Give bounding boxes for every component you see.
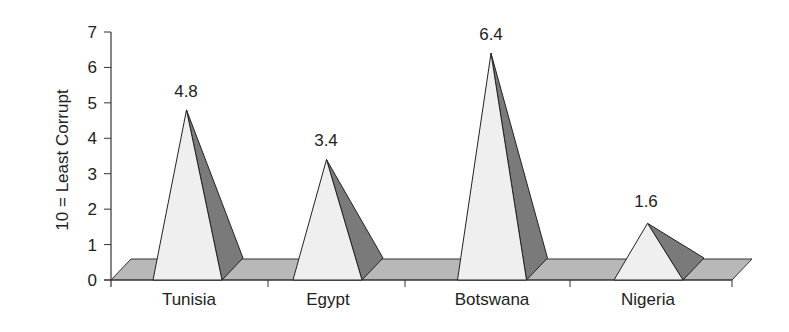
y-tick-label: 0 (88, 271, 97, 290)
y-tick-label: 1 (88, 236, 97, 255)
y-tick-label: 7 (88, 23, 97, 42)
pyramid-series (153, 53, 704, 280)
y-tick-label: 5 (88, 94, 97, 113)
x-axis (104, 280, 732, 287)
data-label-botswana: 6.4 (479, 25, 503, 44)
x-tick-label-egypt: Egypt (306, 290, 350, 309)
y-tick-label: 6 (88, 58, 97, 77)
x-tick-label-nigeria: Nigeria (621, 290, 675, 309)
data-label-tunisia: 4.8 (174, 82, 198, 101)
pyramid-chart: 10 = Least Corrupt 01234567 Tunisia Egyp… (0, 0, 789, 332)
y-tick-label: 4 (88, 129, 97, 148)
y-axis: 01234567 (88, 23, 111, 290)
y-tick-label: 2 (88, 200, 97, 219)
data-label-egypt: 3.4 (314, 131, 338, 150)
y-axis-label: 10 = Least Corrupt (53, 89, 72, 231)
x-tick-label-botswana: Botswana (455, 290, 530, 309)
y-tick-label: 3 (88, 165, 97, 184)
x-tick-label-tunisia: Tunisia (162, 290, 217, 309)
data-label-nigeria: 1.6 (634, 192, 658, 211)
